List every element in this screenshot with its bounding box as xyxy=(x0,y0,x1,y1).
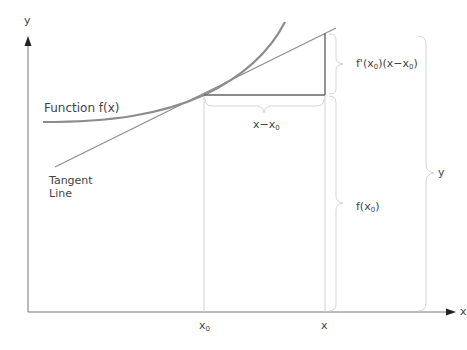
tangent-label-line1: Tangent xyxy=(49,175,93,187)
dx-label: x−x0 xyxy=(253,119,280,134)
x0-tick-label: x0 xyxy=(199,320,210,335)
fx0-label: f(x0) xyxy=(356,201,379,216)
x-tick-label: x xyxy=(321,320,328,332)
dx-brace xyxy=(205,99,324,113)
y-axis-label: y xyxy=(24,15,31,27)
derivative-label: f'(x0)(x−x0) xyxy=(356,58,418,73)
tangent-label-line2: Line xyxy=(49,188,72,200)
x-axis-arrow-icon xyxy=(446,309,456,316)
x-axis-label: x xyxy=(460,306,467,318)
derivative-brace xyxy=(329,34,343,94)
y-brace-label: y xyxy=(438,167,445,179)
y-axis-arrow-icon xyxy=(25,36,32,46)
fx0-brace xyxy=(329,96,343,311)
tangent-line xyxy=(55,28,336,167)
y-brace xyxy=(418,36,434,311)
function-label: Function f(x) xyxy=(44,102,120,114)
